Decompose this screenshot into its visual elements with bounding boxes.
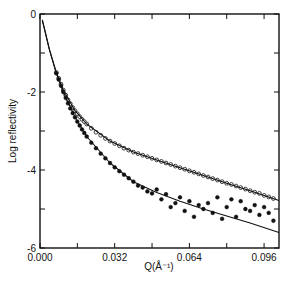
filled-data-point [262, 205, 266, 209]
filled-data-point [220, 217, 224, 221]
x-tick-label: 0.096 [252, 252, 277, 263]
filled-data-point [160, 197, 164, 201]
plot-border [40, 14, 279, 248]
filled-data-point [146, 190, 150, 194]
axis-ticks [40, 14, 279, 248]
data-series [42, 20, 279, 233]
filled-data-point [267, 211, 271, 215]
series-filled-circles-data [54, 71, 275, 222]
filled-data-point [230, 197, 234, 201]
filled-data-point [192, 215, 196, 219]
filled-data-point [253, 203, 257, 207]
x-tick-label: 0.064 [177, 252, 202, 263]
y-tick-label: 0 [30, 9, 36, 20]
y-tick-label: -2 [27, 87, 36, 98]
plot-frame [40, 14, 279, 248]
y-tick-label: -4 [27, 165, 36, 176]
series-fit-upper [42, 20, 279, 201]
filled-data-point [183, 209, 187, 213]
x-axis-title: Q(Å⁻¹) [144, 260, 173, 272]
reflectivity-chart: 0.0000.0320.0640.0960-2-4-6 Q(Å⁻¹) Log r… [0, 0, 288, 288]
filled-data-point [178, 195, 182, 199]
filled-data-point [174, 201, 178, 205]
y-axis-title: Log reflectivity [7, 99, 18, 163]
filled-data-point [258, 213, 262, 217]
filled-data-point [150, 192, 154, 196]
x-tick-label: 0.032 [102, 252, 127, 263]
filled-data-point [272, 219, 276, 223]
filled-data-point [239, 199, 243, 203]
filled-data-point [216, 195, 220, 199]
filled-data-point [206, 201, 210, 205]
y-tick-label: -6 [27, 243, 36, 254]
filled-data-point [248, 209, 252, 213]
filled-data-point [188, 199, 192, 203]
filled-data-point [225, 205, 229, 209]
filled-data-point [155, 188, 159, 192]
filled-data-point [244, 207, 248, 211]
axis-tick-labels: 0.0000.0320.0640.0960-2-4-6 [27, 9, 277, 263]
filled-data-point [169, 205, 173, 209]
